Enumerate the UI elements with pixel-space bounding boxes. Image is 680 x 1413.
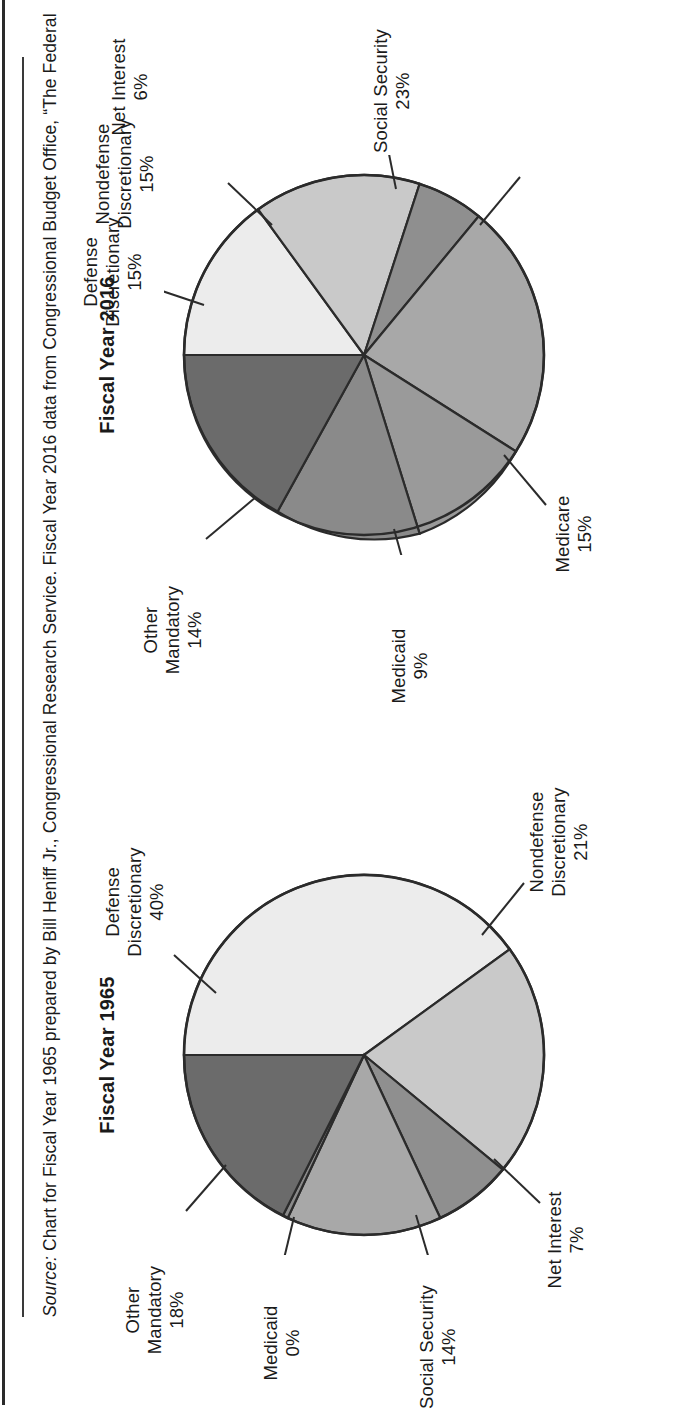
source-note-text: Chart for Fiscal Year 1965 prepared by B… <box>40 13 60 1256</box>
pie-label-medicaid-2016-name: Medicaid <box>388 629 409 704</box>
leader-line-other-mandatory-2016 <box>206 497 256 539</box>
pie-label-other-mandatory-2016-name: Other Mandatory <box>140 586 183 674</box>
pie-label-net-interest-2016: Net Interest 6% <box>108 7 173 167</box>
pie-label-net-interest-1965-value: 7% <box>566 1155 588 1325</box>
pie-label-other-mandatory-1965-name: Other Mandatory <box>122 1266 165 1354</box>
pie-label-other-mandatory-2016-value: 14% <box>184 545 206 715</box>
pie-label-medicaid-1965-value: 0% <box>282 1263 304 1413</box>
pie-label-social-security-2016: Social Security 23% <box>370 1 435 181</box>
leader-line-nondefense-1965 <box>482 883 524 935</box>
scan-edge-line-outer <box>2 0 5 1405</box>
pie-label-medicare-2016-value: 15% <box>574 449 596 619</box>
pie-label-net-interest-2016-name: Net Interest <box>108 39 129 136</box>
pie-label-net-interest-1965: Net Interest 7% <box>544 1155 609 1325</box>
pie-svg-2016 <box>164 155 564 555</box>
pie-label-medicaid-2016: Medicaid 9% <box>388 581 453 751</box>
pie-label-medicare-2016-name: Medicare <box>552 496 573 573</box>
pie-label-net-interest-2016-value: 6% <box>130 7 152 167</box>
pie-label-other-mandatory-1965: Other Mandatory 18% <box>122 1225 209 1395</box>
pie-label-medicaid-1965: Medicaid 0% <box>260 1263 325 1413</box>
leader-line-medicaid-1965 <box>282 1217 294 1255</box>
source-note-label: Source: <box>40 1256 60 1317</box>
leader-line-other-mandatory-1965 <box>186 1165 226 1211</box>
pie-label-net-interest-1965-name: Net Interest <box>544 1192 565 1289</box>
leader-line-net-interest-1965 <box>494 1159 540 1203</box>
source-note: Source: Chart for Fiscal Year 1965 prepa… <box>40 0 62 1317</box>
leader-line-medicare-2016 <box>504 455 546 505</box>
pie-label-social-security-2016-value: 23% <box>392 1 414 181</box>
pie-chart-1965: Defense Discretionary 40% Nondefense Dis… <box>164 855 564 1255</box>
pie-label-social-security-1965-value: 14% <box>438 1257 460 1413</box>
pie-label-defense-discretionary-1965: Defense Discretionary 40% <box>102 807 189 997</box>
pie-label-nondefense-discretionary-1965-value: 21% <box>570 747 592 937</box>
pie-label-defense-discretionary-1965-value: 40% <box>146 807 168 997</box>
pie-label-nondefense-discretionary-1965: Nondefense Discretionary 21% <box>526 747 613 937</box>
pie-label-other-mandatory-1965-value: 18% <box>166 1225 188 1395</box>
pie-label-medicaid-2016-value: 9% <box>410 581 432 751</box>
pie-label-nondefense-discretionary-1965-name: Nondefense Discretionary <box>526 787 569 896</box>
pie-label-social-security-1965-name: Social Security <box>416 1285 437 1409</box>
pie-label-social-security-1965: Social Security 14% <box>416 1257 481 1413</box>
chart-fiscal-year-1965: Fiscal Year 1965 <box>78 705 678 1405</box>
leader-line-social-security-2016 <box>480 177 520 225</box>
pie-label-medicaid-1965-name: Medicaid <box>260 1306 281 1381</box>
charts-row: Fiscal Year 1965 <box>78 0 678 1405</box>
pie-svg-1965 <box>164 855 564 1255</box>
pie-label-other-mandatory-2016: Other Mandatory 14% <box>140 545 227 715</box>
pie-label-medicare-2016: Medicare 15% <box>552 449 617 619</box>
pie-chart-2016: Defense Discretionary 15% Nondefense Dis… <box>164 155 564 555</box>
pie-label-defense-discretionary-1965-name: Defense Discretionary <box>102 847 145 956</box>
scan-edge-line-inner <box>22 57 24 1317</box>
pie-label-social-security-2016-name: Social Security <box>370 29 391 153</box>
chart-fiscal-year-2016: Fiscal Year 2016 <box>78 5 678 705</box>
